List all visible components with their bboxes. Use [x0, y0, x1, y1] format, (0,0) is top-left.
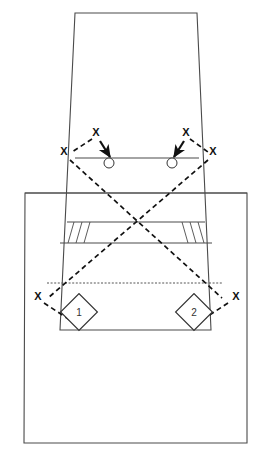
target-right-circle[interactable]: [167, 158, 177, 168]
court-structure: [24, 13, 247, 443]
outer-court-boundary: [24, 193, 247, 443]
player-marker-x-base-right[interactable]: X: [232, 290, 240, 302]
numbered-marker-1[interactable]: 1: [61, 294, 98, 331]
player-marker-x-base-left[interactable]: X: [34, 290, 42, 302]
player-marker-x-top-right[interactable]: X: [182, 126, 190, 138]
target-left-circle[interactable]: [104, 158, 114, 168]
arrow-right-icon: [174, 141, 184, 157]
band-divider-left-2: [76, 222, 82, 243]
band-divider-right-1: [198, 222, 204, 243]
dash-left-x-to-net: [72, 139, 92, 152]
band-dividers-left: [68, 222, 90, 243]
arrow-left-icon: [100, 141, 110, 157]
numbered-marker-2[interactable]: 2: [176, 294, 213, 331]
player-marker-x-top-left[interactable]: X: [92, 126, 100, 138]
dash-right-x-to-net: [190, 139, 208, 152]
numbered-markers[interactable]: 1 2: [61, 294, 213, 331]
player-marker-x-net-left[interactable]: X: [60, 145, 68, 157]
numbered-marker-2-label: 2: [191, 307, 197, 318]
band-dividers-right: [182, 222, 204, 243]
band-divider-right-3: [182, 222, 188, 243]
direction-arrows: [100, 141, 184, 157]
numbered-marker-1-label: 1: [76, 307, 82, 318]
band-divider-left-3: [84, 222, 90, 243]
court-diagram-svg: X X X X X X 1 2: [0, 0, 270, 452]
court-diagram-container: X X X X X X 1 2: [0, 0, 270, 452]
dash-diag-left: [70, 160, 222, 298]
target-circles[interactable]: [104, 158, 177, 168]
player-marker-x-net-right[interactable]: X: [209, 145, 217, 157]
band-divider-right-2: [190, 222, 196, 243]
band-divider-left-1: [68, 222, 74, 243]
